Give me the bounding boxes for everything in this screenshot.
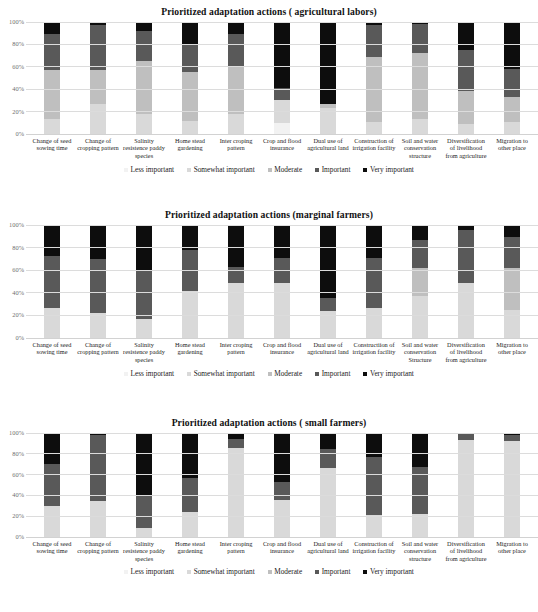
bar-column[interactable] [75,225,121,338]
stacked-bar[interactable] [274,225,290,338]
legend-item[interactable]: Somewhat important [187,369,255,378]
bar-segment[interactable] [366,225,382,258]
bar-column[interactable] [75,433,121,537]
stacked-bar[interactable] [320,225,336,338]
bar-column[interactable] [489,22,535,134]
stacked-bar[interactable] [228,225,244,338]
bar-segment[interactable] [90,501,106,537]
bar-column[interactable] [121,225,167,338]
bar-segment[interactable] [228,225,244,267]
bar-segment[interactable] [274,88,290,100]
stacked-bar[interactable] [228,22,244,134]
bar-column[interactable] [351,22,397,134]
bar-segment[interactable] [228,22,244,34]
legend-item[interactable]: Very important [363,567,413,576]
bar-segment[interactable] [44,34,60,70]
bar-segment[interactable] [412,119,428,134]
bar-segment[interactable] [228,283,244,338]
bar-segment[interactable] [274,500,290,537]
bar-segment[interactable] [366,25,382,56]
bar-column[interactable] [397,225,443,338]
stacked-bar[interactable] [136,433,152,537]
bar-segment[interactable] [228,34,244,66]
bar-segment[interactable] [458,230,474,283]
stacked-bar[interactable] [90,22,106,134]
stacked-bar[interactable] [182,433,198,537]
bar-segment[interactable] [504,122,520,134]
bar-segment[interactable] [44,256,60,308]
bar-column[interactable] [121,22,167,134]
stacked-bar[interactable] [412,22,428,134]
bar-segment[interactable] [136,22,152,31]
bar-segment[interactable] [320,449,336,469]
legend-item[interactable]: Somewhat important [187,567,255,576]
bar-segment[interactable] [504,97,520,122]
bar-segment[interactable] [90,313,106,338]
bar-column[interactable] [167,22,213,134]
bar-segment[interactable] [44,22,60,34]
bar-segment[interactable] [136,225,152,271]
legend-item[interactable]: Moderate [268,165,302,174]
bar-column[interactable] [305,433,351,537]
stacked-bar[interactable] [136,22,152,134]
bar-column[interactable] [213,22,259,134]
bar-segment[interactable] [366,515,382,537]
bar-segment[interactable] [504,225,520,237]
bar-column[interactable] [489,433,535,537]
legend-item[interactable]: Important [315,567,350,576]
bar-column[interactable] [167,433,213,537]
bar-segment[interactable] [412,433,428,467]
bar-segment[interactable] [366,308,382,339]
bar-segment[interactable] [412,225,428,240]
stacked-bar[interactable] [44,433,60,537]
legend-item[interactable]: Very important [363,369,413,378]
bar-segment[interactable] [458,124,474,134]
bar-segment[interactable] [44,119,60,134]
bar-segment[interactable] [504,69,520,97]
bar-segment[interactable] [136,319,152,338]
bar-segment[interactable] [458,440,474,537]
bar-column[interactable] [259,433,305,537]
bar-column[interactable] [351,433,397,537]
bar-segment[interactable] [504,22,520,69]
bar-column[interactable] [305,22,351,134]
legend-item[interactable]: Less important [124,567,174,576]
stacked-bar[interactable] [228,433,244,537]
bar-segment[interactable] [182,22,198,44]
bar-segment[interactable] [458,50,474,91]
bar-column[interactable] [29,22,75,134]
bar-segment[interactable] [44,464,60,506]
stacked-bar[interactable] [458,22,474,134]
legend-item[interactable]: Moderate [268,567,302,576]
bar-segment[interactable] [458,91,474,123]
bar-segment[interactable] [412,514,428,537]
stacked-bar[interactable] [274,433,290,537]
bar-segment[interactable] [182,72,198,120]
stacked-bar[interactable] [458,433,474,537]
bar-segment[interactable] [90,435,106,501]
bar-segment[interactable] [320,108,336,134]
bar-segment[interactable] [44,433,60,464]
bar-segment[interactable] [182,44,198,72]
bar-segment[interactable] [412,53,428,119]
stacked-bar[interactable] [274,22,290,134]
stacked-bar[interactable] [90,433,106,537]
legend-item[interactable]: Important [315,369,350,378]
bar-segment[interactable] [366,457,382,515]
bar-column[interactable] [351,225,397,338]
bar-column[interactable] [259,225,305,338]
stacked-bar[interactable] [504,225,520,338]
bar-segment[interactable] [412,296,428,338]
bar-segment[interactable] [274,123,290,134]
bar-column[interactable] [213,225,259,338]
bar-segment[interactable] [458,22,474,50]
bar-column[interactable] [443,225,489,338]
bar-segment[interactable] [228,448,244,537]
stacked-bar[interactable] [366,225,382,338]
bar-segment[interactable] [504,268,520,310]
bar-column[interactable] [443,22,489,134]
stacked-bar[interactable] [366,433,382,537]
bar-column[interactable] [29,225,75,338]
stacked-bar[interactable] [412,433,428,537]
bar-segment[interactable] [320,22,336,104]
